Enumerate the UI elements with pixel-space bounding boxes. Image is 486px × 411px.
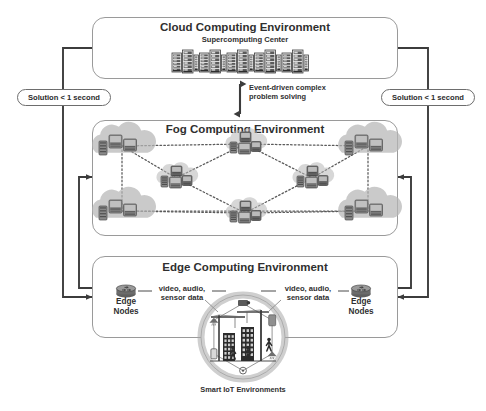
event-driven-line2: problem solving (249, 92, 306, 101)
fog-panel-title: Fog Computing Environment (92, 123, 398, 135)
cloud-panel-title: Cloud Computing Environment (92, 21, 398, 33)
event-driven-label: Event-driven complex problem solving (249, 84, 349, 101)
cloud-panel-subtitle: Supercomputing Center (92, 35, 398, 44)
latency-badge-left: Solution < 1 second (17, 89, 111, 106)
edge-nodes-right-line2: Nodes (348, 307, 373, 316)
latency-badge-right-label: Solution < 1 second (392, 93, 464, 102)
data-flow-left-label: video, audio, sensor data (152, 285, 212, 303)
data-flow-left-line1: video, audio, (159, 284, 205, 293)
data-flow-right-line1: video, audio, (285, 284, 331, 293)
iot-caption: Smart IoT Environments (183, 386, 303, 395)
data-flow-right-label: video, audio, sensor data (278, 285, 338, 303)
latency-badge-left-label: Solution < 1 second (28, 93, 100, 102)
data-flow-right-line2: sensor data (287, 293, 330, 302)
edge-nodes-left-line1: Edge (116, 297, 136, 306)
edge-nodes-right-line1: Edge (351, 297, 371, 306)
diagram-canvas: Cloud Computing Environment Supercomputi… (0, 0, 486, 411)
edge-nodes-right-label: Edge Nodes (337, 297, 385, 316)
data-flow-left-line2: sensor data (161, 293, 204, 302)
event-driven-line1: Event-driven complex (249, 83, 326, 92)
edge-nodes-left-label: Edge Nodes (102, 297, 150, 316)
edge-nodes-left-line2: Nodes (113, 307, 138, 316)
fog-computing-panel (92, 120, 398, 236)
edge-panel-title: Edge Computing Environment (92, 261, 398, 273)
latency-badge-right: Solution < 1 second (381, 89, 475, 106)
